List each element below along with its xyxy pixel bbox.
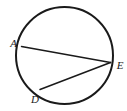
circle-geometry-figure: A E D: [0, 0, 127, 111]
point-label-e: E: [116, 59, 124, 71]
point-label-d: D: [30, 93, 39, 105]
point-label-a: A: [9, 37, 17, 49]
geometry-canvas: A E D: [0, 0, 127, 111]
figure-background: [0, 0, 127, 111]
